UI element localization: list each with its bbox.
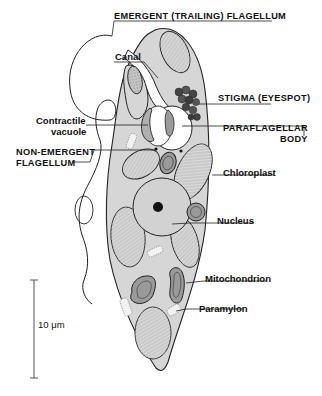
label-paraflagellar-body-2: BODY: [280, 134, 308, 144]
flagellum-loop: [75, 196, 93, 224]
label-non-emergent-flagellum-2: FLAGELLUM: [16, 158, 75, 168]
label-canal: Canal: [115, 51, 141, 62]
label-contractile-vacuole-2: vacuole: [51, 126, 86, 137]
label-emergent-flagellum: EMERGENT (TRAILING) FLAGELLUM: [114, 11, 286, 21]
nucleolus: [153, 202, 163, 212]
label-stigma: STIGMA (EYESPOT): [218, 93, 310, 103]
chloroplast: [135, 307, 171, 359]
mitochondrion: [170, 268, 185, 303]
label-paraflagellar-body: PARAFLAGELLAR: [223, 123, 308, 133]
basal-body: [179, 149, 182, 152]
mitochondrion: [187, 203, 205, 221]
scale-bar-label: 10 μm: [38, 319, 65, 330]
label-non-emergent-flagellum: NON-EMERGENT: [16, 147, 95, 157]
scale-bar: [30, 280, 38, 378]
label-mitochondrion: Mitochondrion: [205, 273, 271, 284]
label-contractile-vacuole: Contractile: [36, 115, 86, 126]
label-paramylon: Paramylon: [199, 303, 248, 314]
euglena-diagram: EMERGENT (TRAILING) FLAGELLUM Canal STIG…: [0, 0, 322, 396]
label-chloroplast: Chloroplast: [223, 167, 277, 178]
label-nucleus: Nucleus: [217, 215, 254, 226]
